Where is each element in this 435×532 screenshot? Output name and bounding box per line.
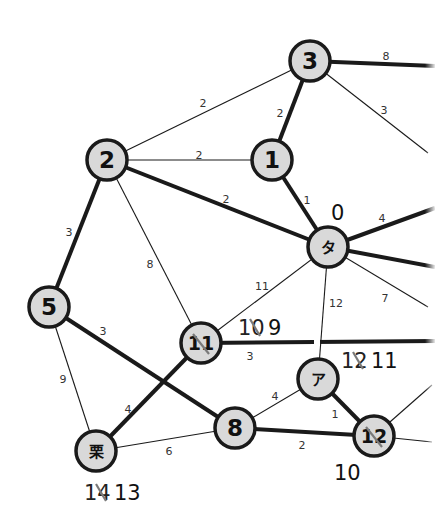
node-n11: 11 [181,323,221,363]
node-n2: 2 [87,140,127,180]
node-nta: タ [308,227,348,267]
edge-weight-label: 2 [223,193,230,206]
edge-weight-label: 2 [299,439,306,452]
node-n5: 5 [29,287,69,327]
ann-a: 1211 [341,349,398,373]
edge-n2-nta [107,160,328,247]
edge-weight-label: 3 [247,350,254,363]
node-n12: 12 [354,416,394,456]
node-label: ア [311,371,326,389]
edge-n2-n11 [107,160,201,343]
edge-weight-label: 9 [60,373,67,386]
node-label: タ [321,239,336,257]
current-distance: 9 [268,316,281,340]
node-label: 1 [264,147,280,173]
edge-weight-label: 4 [272,390,279,403]
node-label: 3 [302,48,318,74]
node-label: 5 [41,294,57,320]
edge-weight-label: 11 [255,280,269,293]
edge-weight-label: 2 [277,107,284,120]
ann-12: 10 [334,461,361,485]
distance-annotations-layer: 01091211101413 [84,201,398,505]
edge-weight-label: 1 [332,408,339,421]
edge-weight-label: 2 [200,97,207,110]
edge-weight-label: 3 [100,325,107,338]
ann-11: 109 [238,316,281,340]
edge-weight-label: 6 [166,445,173,458]
node-label: 2 [99,147,115,173]
node-n1: 1 [252,140,292,180]
current-distance: 13 [114,481,141,505]
node-label: 8 [227,415,243,441]
edge-weight-label: 2 [196,149,203,162]
current-distance: 11 [371,349,398,373]
edge-weight-label: 8 [147,258,154,271]
current-distance: 10 [334,461,361,485]
edge-weight-label: 3 [381,104,388,117]
edge-weight-label: 7 [382,292,389,305]
node-n8: 8 [215,408,255,448]
edges-layer [49,61,435,451]
current-distance: 0 [331,201,344,225]
node-label: 栗 [89,443,104,461]
nodes-layer: 312タ511ア812栗 [29,41,394,471]
node-na: ア [298,359,338,399]
graph-diagram: 83222124738111233944162 312タ511ア812栗 010… [0,0,435,532]
edge-gap [314,336,320,346]
ann-ta: 0 [331,201,344,225]
edge-weight-label: 3 [66,226,73,239]
ann-kuri: 1413 [84,481,141,505]
edge-weight-label: 8 [383,50,390,63]
edge-n2-n5 [49,160,107,307]
edge-n5-nkuri [49,307,96,451]
edge-weight-label: 12 [329,297,343,310]
edge-n3-right_edge_2 [310,61,428,153]
node-n3: 3 [290,41,330,81]
edge-weight-label: 4 [125,403,132,416]
edge-weight-label: 4 [379,212,386,225]
node-nkuri: 栗 [76,431,116,471]
edge-weight-label: 1 [304,194,311,207]
